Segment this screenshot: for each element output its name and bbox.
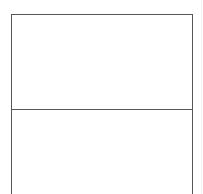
table-row[interactable] [12, 15, 192, 110]
form-table [11, 14, 193, 194]
table-cell-lower[interactable] [12, 110, 192, 194]
scan-edge-artifact [201, 0, 202, 194]
document-page [0, 0, 203, 194]
table-cell-upper[interactable] [12, 15, 192, 109]
table-row[interactable] [12, 110, 192, 194]
